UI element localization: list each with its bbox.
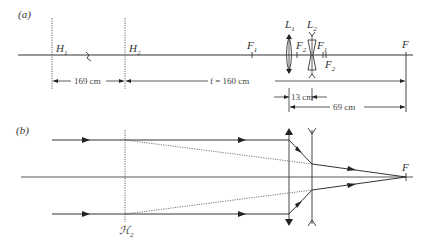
dim-arrow-icon	[400, 105, 405, 109]
lens-l1-b-top-arrow-icon	[285, 128, 293, 135]
ray-direction-arrow-icon	[82, 211, 90, 217]
dim-lens-separation-label: 13 cm	[291, 92, 313, 102]
dim-arrow-icon	[284, 95, 289, 99]
l2-label: L2	[306, 18, 317, 33]
ray-bottom-to-focus	[312, 177, 406, 190]
panel-a: (a) H1 H2 F1 L1 F2 L2 F1 F2	[18, 8, 413, 112]
script-h2-label: ℋ2	[119, 224, 134, 239]
dim-arrow-icon	[400, 79, 405, 83]
dim-arrow-icon	[126, 79, 131, 83]
l1-label: L1	[284, 18, 295, 33]
dim-focal-length-label: f = 160 cm	[210, 76, 249, 86]
lens-l1-b-bottom-arrow-icon	[285, 219, 293, 226]
system-focus-label-b: F	[401, 161, 409, 173]
construction-ray-top	[125, 140, 312, 164]
axis-break-icon	[86, 52, 91, 61]
dim-h1-h2-label: 169 cm	[74, 76, 101, 86]
lens-l1-bottom-arrow-icon	[286, 69, 292, 74]
panel-a-label: (a)	[18, 8, 31, 21]
construction-ray-bottom	[125, 190, 312, 214]
panel-b: (b) ℋ2 F	[16, 124, 413, 239]
f1-left-label: F1	[246, 39, 257, 54]
dim-arrow-icon	[290, 105, 295, 109]
dim-arrow-icon	[53, 79, 58, 83]
lens-l2-bottom-v-icon	[309, 74, 315, 78]
ray-direction-arrow-icon	[238, 137, 246, 143]
dim-l1-to-focus-label: 69 cm	[333, 102, 355, 112]
ray-direction-arrow-icon	[238, 211, 246, 217]
dim-arrow-icon	[119, 79, 124, 83]
ray-direction-arrow-icon	[82, 137, 90, 143]
optics-diagram: (a) H1 H2 F1 L1 F2 L2 F1 F2	[0, 0, 425, 249]
f2-left-label: F2	[295, 39, 307, 54]
panel-b-label: (b)	[16, 124, 29, 137]
system-focus-label-a: F	[401, 38, 409, 50]
lens-l1-top-arrow-icon	[286, 34, 292, 39]
f1-right-label: F1	[316, 39, 327, 54]
f2-right-label: F2	[324, 58, 336, 73]
ray-top-to-focus	[312, 164, 406, 177]
